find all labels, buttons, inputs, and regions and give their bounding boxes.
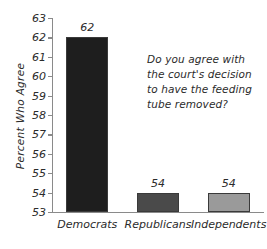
y-axis-tick-labels: 5354555657585960616263 [22,0,46,249]
question-annotation: Do you agree withthe court's decisionto … [147,52,267,112]
y-axis-tick-label: 57 [24,129,46,140]
y-axis-tick [48,37,53,38]
y-axis-tick-label: 56 [24,148,46,159]
bar-value-label: 54 [151,178,165,189]
y-axis-tick [48,154,53,155]
y-axis-tick-label: 55 [24,168,46,179]
bar-value-label: 54 [222,178,236,189]
y-axis-tick-label: 59 [24,90,46,101]
y-axis-tick [48,57,53,58]
x-axis-category-label: Independents [191,218,266,231]
bar: 54 [137,193,179,212]
annotation-line: to have the feeding [147,82,267,97]
y-axis-tick [48,115,53,116]
bar-value-label: 62 [80,22,94,33]
y-axis-tick [48,76,53,77]
y-axis-tick [48,193,53,194]
y-axis-tick [48,96,53,97]
bar: 54 [208,193,250,212]
bar-rect [137,193,179,212]
y-axis-tick-label: 54 [24,187,46,198]
x-axis-category-label: Democrats [57,218,117,231]
y-axis-tick-label: 63 [24,13,46,24]
y-axis-tick [48,173,53,174]
annotation-line: tube removed? [147,97,267,112]
x-axis-line [52,212,264,213]
y-axis-tick-label: 60 [24,71,46,82]
plot-area: 62Democrats54Republicans54Independents [52,18,264,212]
y-axis-tick [48,212,53,213]
bar-chart: Percent Who Agree 5354555657585960616263… [0,0,267,249]
y-axis-tick [48,18,53,19]
y-axis-tick-label: 58 [24,110,46,121]
y-axis-tick [48,134,53,135]
x-axis-category-label: Republicans [125,218,192,231]
annotation-line: the court's decision [147,67,267,82]
y-axis-tick-label: 62 [24,32,46,43]
bar-rect [208,193,250,212]
annotation-line: Do you agree with [147,52,267,67]
y-axis-tick-label: 53 [24,207,46,218]
bar: 62 [66,37,108,212]
bar-rect [66,37,108,212]
y-axis-tick-label: 61 [24,51,46,62]
